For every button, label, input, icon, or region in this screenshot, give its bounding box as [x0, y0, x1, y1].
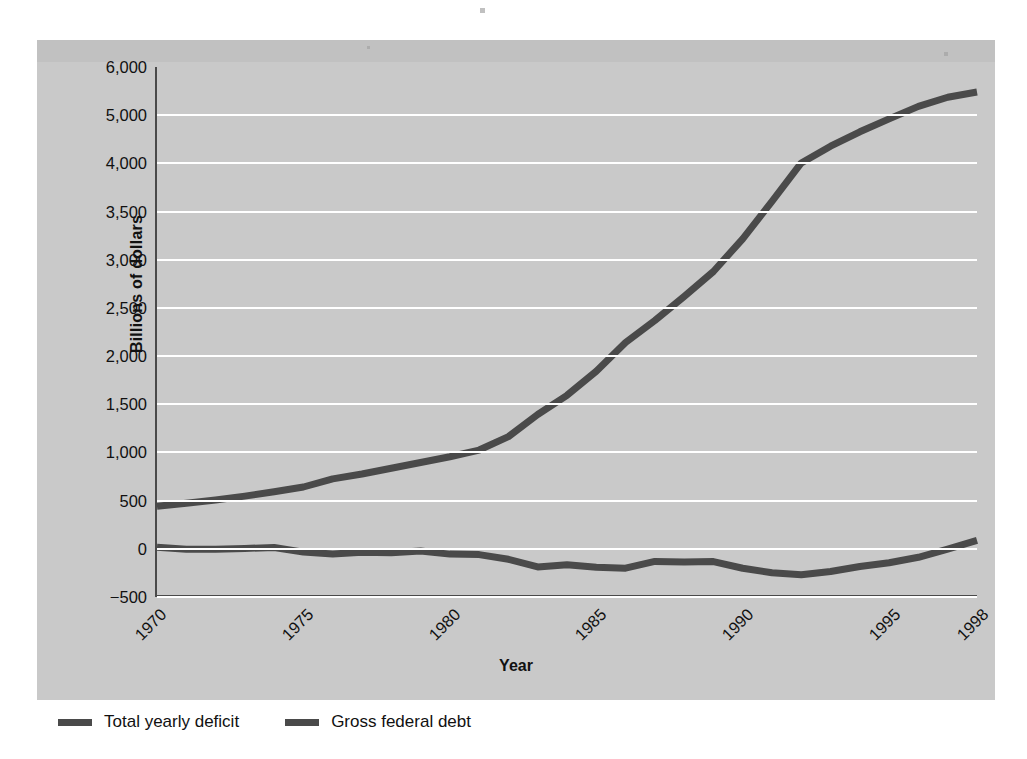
- chart-figure: Billions of dollars 6,0005,0004,0003,500…: [0, 0, 1027, 759]
- y-tick-label: 6,000: [57, 58, 147, 77]
- y-tick-label: 3,500: [57, 202, 147, 221]
- y-axis-title: Billions of dollars: [128, 159, 146, 409]
- gridline: [157, 307, 977, 309]
- legend-label: Gross federal debt: [331, 712, 471, 732]
- legend-swatch-icon: [58, 719, 92, 726]
- series-layer: [157, 67, 977, 595]
- x-tick-label: 1995: [865, 605, 904, 644]
- y-tick-label: 500: [57, 491, 147, 510]
- x-tick-label: 1970: [131, 605, 170, 644]
- x-tick-label: 1998: [953, 605, 992, 644]
- y-tick-label: 5,000: [57, 106, 147, 125]
- gridline: [157, 259, 977, 261]
- scan-speck: [367, 46, 370, 49]
- gridline: [157, 114, 977, 116]
- gridline: [157, 403, 977, 405]
- series-line: [157, 92, 977, 506]
- legend-label: Total yearly deficit: [104, 712, 239, 732]
- x-tick-label: 1980: [425, 605, 464, 644]
- y-tick-label: 1,000: [57, 443, 147, 462]
- legend-item-total-yearly-deficit[interactable]: Total yearly deficit: [58, 712, 239, 732]
- series-line: [157, 540, 977, 574]
- scan-speck: [480, 8, 485, 13]
- x-axis-title: Year: [37, 657, 995, 675]
- x-tick-label: 1985: [571, 605, 610, 644]
- x-tick-label: 1975: [278, 605, 317, 644]
- y-tick-label: 3,000: [57, 250, 147, 269]
- y-tick-label: 4,000: [57, 154, 147, 173]
- y-tick-label: 2,000: [57, 347, 147, 366]
- y-tick-label: −500: [57, 588, 147, 607]
- y-tick-label: 0: [57, 539, 147, 558]
- plot-area: 6,0005,0004,0003,5003,0002,5002,0001,500…: [155, 67, 977, 597]
- gridline: [157, 162, 977, 164]
- gridline: [157, 355, 977, 357]
- gridline: [157, 548, 977, 550]
- legend-item-gross-federal-debt[interactable]: Gross federal debt: [285, 712, 471, 732]
- chart-legend: Total yearly deficit Gross federal debt: [58, 712, 471, 732]
- y-tick-label: 1,500: [57, 395, 147, 414]
- gridline: [157, 596, 977, 598]
- chart-panel: Billions of dollars 6,0005,0004,0003,500…: [37, 40, 995, 700]
- y-tick-label: 2,500: [57, 298, 147, 317]
- x-tick-label: 1990: [718, 605, 757, 644]
- gridline: [157, 211, 977, 213]
- gridline: [157, 500, 977, 502]
- legend-swatch-icon: [285, 719, 319, 726]
- gridline: [157, 451, 977, 453]
- scan-speck: [944, 52, 948, 56]
